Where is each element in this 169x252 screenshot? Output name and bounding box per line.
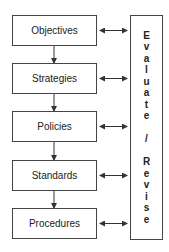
evaluate-revise-letter	[145, 145, 148, 157]
evaluate-revise-letter: l	[145, 64, 148, 76]
standards-label: Standards	[32, 170, 78, 181]
evaluate-revise-letter: e	[144, 214, 150, 226]
policies-box: Policies	[12, 111, 97, 142]
evaluate-revise-letter: a	[144, 87, 150, 99]
policies-label: Policies	[37, 121, 71, 132]
evaluate-revise-box: Evaluate / Revise	[130, 15, 163, 240]
evaluate-revise-letter: s	[144, 202, 150, 214]
evaluate-revise-letter: R	[143, 156, 150, 168]
evaluate-revise-letter: e	[144, 168, 150, 180]
evaluate-revise-letter: e	[144, 110, 150, 122]
evaluate-revise-letter: i	[145, 191, 148, 203]
evaluate-revise-letter: E	[143, 30, 150, 42]
objectives-label: Objectives	[31, 25, 78, 36]
standards-box: Standards	[12, 160, 97, 191]
strategies-box: Strategies	[12, 63, 97, 94]
strategies-label: Strategies	[32, 73, 77, 84]
evaluate-revise-letter: t	[145, 99, 148, 111]
evaluate-revise-letter: v	[144, 179, 150, 191]
objectives-box: Objectives	[12, 15, 97, 46]
procedures-label: Procedures	[29, 218, 80, 229]
evaluate-revise-letter: /	[145, 133, 148, 145]
evaluate-revise-letter: u	[143, 76, 149, 88]
evaluate-revise-letter: v	[144, 41, 150, 53]
procedures-box: Procedures	[12, 208, 97, 239]
evaluate-revise-letter	[145, 122, 148, 134]
evaluate-revise-letter: a	[144, 53, 150, 65]
